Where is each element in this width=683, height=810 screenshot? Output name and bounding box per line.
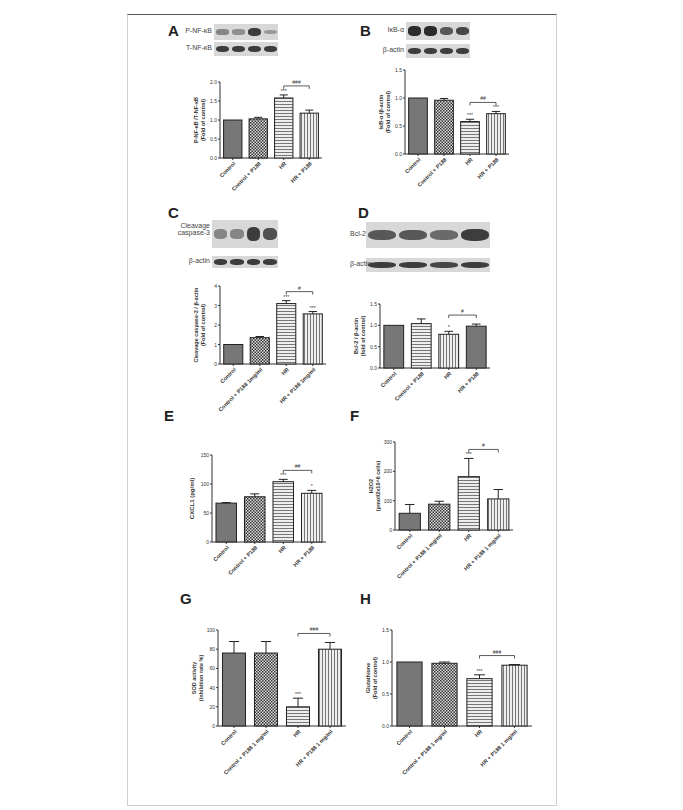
significance-marker: *** bbox=[295, 691, 301, 697]
comparison-bracket bbox=[284, 86, 310, 89]
bracket-label: # bbox=[461, 308, 464, 314]
bracket-label: # bbox=[482, 442, 485, 448]
y-axis-label: SOD activity bbox=[191, 661, 197, 694]
comparison-bracket bbox=[283, 470, 312, 473]
y-axis-label: CXCL1 (pg/ml) bbox=[189, 478, 195, 519]
bar-1 bbox=[244, 497, 265, 542]
x-category-label: Control bbox=[404, 156, 422, 174]
bar-1 bbox=[250, 338, 269, 364]
y-tick-label: 0.5 bbox=[370, 344, 377, 350]
x-category-label: HR + P188 bbox=[290, 160, 313, 183]
panel-e: E 050100150CXCL1 (pg/ml)ControlControl +… bbox=[160, 405, 350, 555]
y-tick-label: 1.5 bbox=[382, 627, 389, 633]
y-axis-label: (Fold of control) bbox=[372, 657, 378, 699]
bar-1 bbox=[435, 100, 454, 154]
bar-2 bbox=[458, 477, 479, 530]
bar-0 bbox=[224, 345, 243, 365]
x-category-label: HR bbox=[280, 366, 290, 376]
y-axis-label: Cleavage caspase-3 / β-actin bbox=[193, 287, 199, 363]
comparison-bracket bbox=[480, 656, 515, 659]
bar-0 bbox=[216, 503, 237, 542]
bar-1 bbox=[249, 119, 267, 158]
y-tick-label: 100 bbox=[207, 627, 216, 633]
bar-chart: 0100200300H2O2(pmol/2x10^6 cells)Control… bbox=[350, 405, 540, 570]
significance-marker: *** bbox=[477, 668, 483, 674]
y-axis-label: IκB-α /β-actin bbox=[378, 94, 384, 130]
bar-1 bbox=[432, 663, 457, 726]
bar-2 bbox=[275, 98, 293, 158]
bar-0 bbox=[397, 662, 422, 726]
y-tick-label: 0.5 bbox=[210, 136, 217, 142]
comparison-bracket bbox=[286, 292, 313, 295]
bracket-label: ### bbox=[493, 649, 502, 655]
bar-2 bbox=[467, 679, 492, 726]
bar-chart: 020406080100SOD activity(inhibition rate… bbox=[160, 590, 350, 800]
bar-chart: 0.00.51.01.52.0P-NF-κB /T-NF-κB(Fold of … bbox=[160, 20, 350, 190]
y-tick-label: 1 bbox=[214, 342, 217, 348]
x-category-label: Control bbox=[220, 728, 238, 746]
bar-1 bbox=[411, 324, 431, 368]
y-tick-label: 1.5 bbox=[395, 67, 402, 73]
significance-marker: *** bbox=[310, 305, 316, 311]
significance-marker: * bbox=[448, 324, 450, 330]
y-tick-label: 1.0 bbox=[395, 95, 402, 101]
y-tick-label: 3 bbox=[214, 303, 217, 309]
y-axis-label: (Fold of control) bbox=[200, 304, 206, 346]
y-tick-label: 0.0 bbox=[395, 151, 402, 157]
y-axis-label: (fold of control) bbox=[360, 316, 366, 357]
y-tick-label: 1.0 bbox=[370, 322, 377, 328]
bar-2 bbox=[439, 334, 459, 368]
bar-2 bbox=[273, 482, 294, 542]
y-tick-label: 0.5 bbox=[395, 123, 402, 129]
y-tick-label: 50 bbox=[203, 510, 209, 516]
y-tick-label: 1.5 bbox=[370, 301, 377, 307]
bar-chart: 01234Cleavage caspase-3 / β-actin(Fold o… bbox=[160, 200, 350, 375]
y-tick-label: 0.5 bbox=[382, 691, 389, 697]
y-axis-label: H2O2 bbox=[368, 479, 374, 493]
bar-0 bbox=[409, 98, 428, 154]
bracket-label: ### bbox=[292, 79, 301, 85]
y-tick-label: 100 bbox=[201, 481, 210, 487]
panel-h: H 0.00.51.01.5Glutathione(Fold of contro… bbox=[350, 590, 540, 800]
bar-chart: 050100150CXCL1 (pg/ml)ControlControl + P… bbox=[160, 405, 350, 555]
bar-2 bbox=[286, 707, 309, 726]
bracket-label: ## bbox=[480, 95, 486, 101]
panel-b: BIκB-αβ-actin 0.00.51.01.5IκB-α /β-actin… bbox=[350, 20, 540, 190]
y-tick-label: 0.0 bbox=[382, 723, 389, 729]
y-tick-label: 1.0 bbox=[210, 117, 217, 123]
y-axis-label: (Fold of control) bbox=[200, 99, 206, 141]
y-axis-label: (pmol/2x10^6 cells) bbox=[375, 461, 381, 512]
bar-chart: 0.00.51.01.5Bcl-2 / β-actin(fold of cont… bbox=[350, 200, 540, 375]
bracket-label: ## bbox=[295, 463, 301, 469]
y-axis-label: P-NF-κB /T-NF-κB bbox=[193, 97, 199, 143]
bar-0 bbox=[399, 513, 420, 530]
y-tick-label: 0 bbox=[214, 361, 217, 367]
bar-2 bbox=[461, 122, 480, 154]
y-tick-label: 200 bbox=[384, 468, 393, 474]
x-category-label: HR + P188 bbox=[476, 156, 499, 179]
y-tick-label: 150 bbox=[201, 452, 210, 458]
bracket-label: ### bbox=[310, 626, 319, 632]
bar-3 bbox=[488, 499, 509, 530]
comparison-bracket bbox=[469, 449, 499, 452]
y-tick-label: 2 bbox=[214, 322, 217, 328]
bar-3 bbox=[502, 665, 527, 726]
bar-3 bbox=[466, 326, 486, 368]
y-tick-label: 0.0 bbox=[210, 155, 217, 161]
y-tick-label: 300 bbox=[384, 439, 393, 445]
significance-marker: * bbox=[311, 483, 313, 489]
y-axis-label: (Fold of control) bbox=[385, 91, 391, 133]
bar-chart: 0.00.51.01.5IκB-α /β-actin(Fold of contr… bbox=[350, 20, 540, 190]
panel-d: DBcl-2β-actin 0.00.51.01.5Bcl-2 / β-acti… bbox=[350, 200, 540, 375]
bar-3 bbox=[318, 649, 341, 726]
x-category-label: HR bbox=[464, 156, 474, 166]
x-category-label: HR bbox=[277, 544, 287, 554]
comparison-bracket bbox=[449, 315, 477, 318]
bar-3 bbox=[487, 114, 506, 154]
y-tick-label: 0.0 bbox=[370, 365, 377, 371]
y-tick-label: 0 bbox=[212, 723, 215, 729]
y-tick-label: 2.0 bbox=[210, 79, 217, 85]
x-category-label: HR bbox=[278, 160, 288, 170]
bracket-label: # bbox=[298, 285, 301, 291]
bar-1 bbox=[429, 504, 450, 530]
